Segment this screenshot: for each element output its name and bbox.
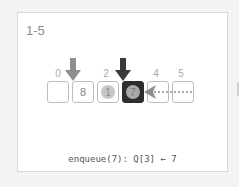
value-token: 1 <box>101 85 115 99</box>
queue-cell-1: 8 <box>72 81 94 103</box>
value-token: 7 <box>126 85 140 99</box>
index-label-5: 5 <box>171 68 191 79</box>
cell-value: 8 <box>80 86 86 98</box>
index-label-4: 4 <box>146 68 166 79</box>
head-pointer-arrow-icon <box>65 58 81 82</box>
tail-pointer-arrow-icon <box>115 58 131 82</box>
queue-cell-0 <box>47 81 69 103</box>
panel-label: 1-5 <box>26 23 45 38</box>
queue-cell-2: 1 <box>97 81 119 103</box>
adjacent-panel-edge <box>237 82 239 96</box>
queue-cell-3-active: 7 <box>122 81 144 103</box>
index-label-2: 2 <box>96 68 116 79</box>
incoming-arrow-icon <box>144 85 194 99</box>
operation-caption: enqueue(7): Q[3] ← 7 <box>18 154 227 164</box>
diagram-panel: 1-5 0 2 4 5 8 1 7 enqueue(7): Q[3] ← 7 <box>17 12 228 172</box>
